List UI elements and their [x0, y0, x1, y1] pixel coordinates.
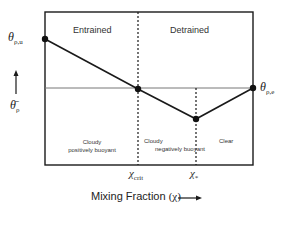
point-chi-crit	[135, 86, 141, 92]
tick-chi-star: χ*	[190, 167, 198, 182]
x-axis-label: Mixing Fraction (χ)	[91, 190, 181, 202]
x-axis-label-symbol: (χ)	[169, 190, 181, 202]
tick-chi-crit: χcrit	[129, 167, 143, 182]
label-cloudy-positive: Cloudy positively buoyant	[62, 138, 122, 154]
point-theta-u	[42, 36, 48, 42]
chi-star-subscript: *	[195, 174, 199, 182]
label-detrained: Detrained	[170, 25, 209, 35]
theta-u-subscript: ρ,u	[14, 38, 23, 46]
label-entrained: Entrained	[73, 25, 112, 35]
label-cloudy-negative-line1: Cloudy	[144, 137, 163, 145]
x-axis-label-text: Mixing Fraction	[91, 190, 166, 202]
x-axis-arrow-icon	[196, 196, 202, 201]
point-theta-e	[250, 85, 256, 91]
buoyancy-curve	[45, 39, 253, 119]
label-theta-rho-u: θρ,u	[8, 30, 23, 46]
label-clear: Clear	[219, 137, 233, 145]
label-theta-rho-e: θρ,e	[260, 80, 274, 96]
label-cloudy-positive-line2: positively buoyant	[62, 146, 122, 154]
label-cloudy-positive-line1: Cloudy	[62, 138, 122, 146]
y-axis-arrow-icon	[14, 70, 19, 76]
point-chi-star	[193, 116, 199, 122]
y-axis-subscript: ρ	[16, 106, 20, 114]
y-axis-label: θ̄ρ	[10, 98, 19, 114]
label-cloudy-negative-line2: negatively buoyant	[155, 145, 205, 153]
theta-e-subscript: ρ,e	[266, 88, 274, 96]
chi-crit-subscript: crit	[134, 174, 143, 182]
